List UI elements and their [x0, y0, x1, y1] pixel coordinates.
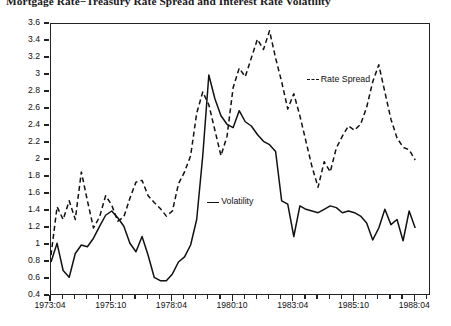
y-tick-label: 1.2 [14, 222, 40, 231]
series-label-volatility: Volatility [221, 196, 253, 206]
y-tick-label: 3.6 [14, 18, 40, 27]
y-tick-mark [44, 158, 49, 159]
y-tick-mark [44, 175, 49, 176]
plot-area [50, 23, 430, 295]
legend-key-volatility [207, 202, 219, 203]
x-tick-label: 1988:04 [399, 301, 430, 310]
chart-title: Mortgage Rate−Treasury Rate Spread and I… [6, 0, 446, 7]
x-tick-label: 1975:10 [95, 301, 126, 310]
y-tick-label: 0.6 [14, 273, 40, 282]
x-tick-label: 1978:04 [156, 301, 187, 310]
y-tick-label: 1.8 [14, 171, 40, 180]
y-tick-label: 1.6 [14, 188, 40, 197]
y-tick-label: 3.4 [14, 35, 40, 44]
y-tick-mark [44, 192, 49, 193]
y-tick-mark [44, 22, 49, 23]
y-tick-mark [44, 243, 49, 244]
y-tick-label: 0.8 [14, 256, 40, 265]
y-tick-label: 0.4 [14, 290, 40, 299]
y-tick-mark [44, 141, 49, 142]
y-tick-mark [44, 107, 49, 108]
chart-figure: Mortgage Rate−Treasury Rate Spread and I… [0, 0, 451, 326]
legend-key-rate-spread [307, 79, 319, 80]
y-tick-label: 2.4 [14, 120, 40, 129]
y-tick-label: 2.8 [14, 86, 40, 95]
x-tick-label: 1983:04 [277, 301, 308, 310]
y-tick-mark [44, 260, 49, 261]
y-tick-mark [44, 209, 49, 210]
y-tick-mark [44, 277, 49, 278]
y-tick-label: 2.2 [14, 137, 40, 146]
y-tick-mark [44, 56, 49, 57]
y-tick-mark [44, 294, 49, 295]
y-tick-mark [44, 226, 49, 227]
series-line-volatility [51, 75, 415, 281]
y-tick-label: 1 [14, 239, 40, 248]
y-tick-mark [44, 39, 49, 40]
y-tick-label: 2.6 [14, 103, 40, 112]
y-tick-label: 3.2 [14, 52, 40, 61]
y-tick-label: 3 [14, 69, 40, 78]
y-tick-mark [44, 124, 49, 125]
series-line-rate-spread [51, 31, 415, 255]
series-label-rate-spread: Rate Spread [321, 74, 370, 84]
y-tick-label: 2 [14, 154, 40, 163]
x-tick-label: 1980:10 [217, 301, 248, 310]
series-lines [51, 24, 431, 296]
y-tick-mark [44, 73, 49, 74]
x-tick-label: 1973:04 [34, 301, 65, 310]
y-tick-label: 1.4 [14, 205, 40, 214]
x-tick-label: 1985:10 [338, 301, 369, 310]
y-tick-mark [44, 90, 49, 91]
